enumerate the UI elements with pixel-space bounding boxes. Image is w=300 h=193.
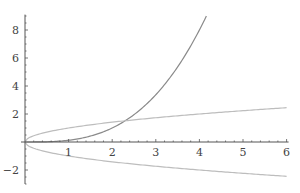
x-tick-label: 5	[240, 146, 247, 159]
series-cubic-line	[25, 16, 206, 142]
tick-labels: 123456−22468	[3, 24, 290, 177]
line-chart: 123456−22468	[0, 0, 300, 193]
y-tick-label: 2	[12, 108, 19, 121]
x-tick-label: 3	[152, 146, 159, 159]
series-sqrt-line	[25, 108, 287, 142]
chart-container: 123456−22468	[0, 0, 300, 193]
y-tick-label: 4	[12, 80, 19, 93]
y-tick-label: −2	[3, 164, 19, 177]
x-tick-label: 4	[196, 146, 203, 159]
y-tick-label: 8	[12, 24, 19, 37]
y-tick-label: 6	[12, 52, 19, 65]
x-tick-label: 1	[65, 146, 72, 159]
x-tick-label: 6	[283, 146, 290, 159]
x-tick-label: 2	[109, 146, 116, 159]
